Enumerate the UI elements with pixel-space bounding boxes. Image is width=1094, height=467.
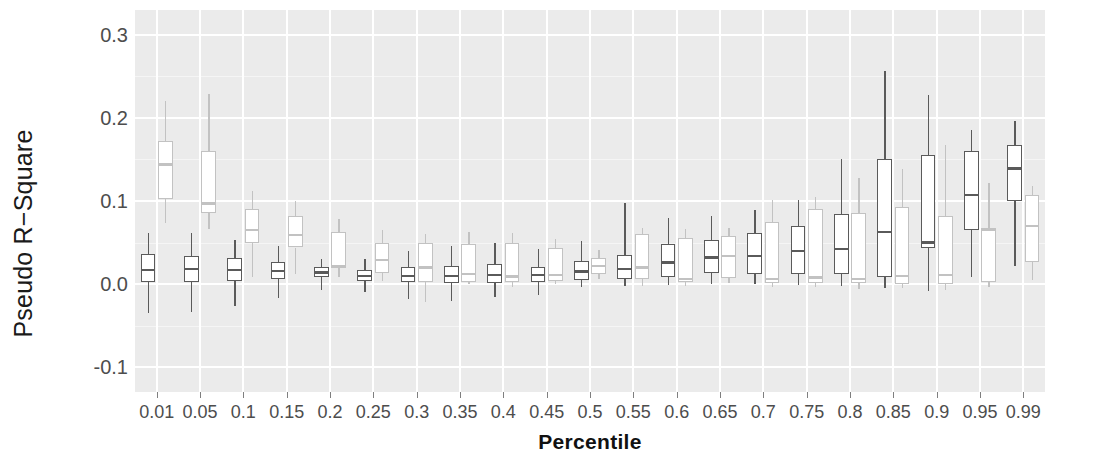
- y-axis-title: Pseudo R−Square: [0, 0, 46, 467]
- x-tick-mark: [547, 392, 548, 398]
- x-tick-mark: [503, 392, 504, 398]
- x-tick-mark: [807, 392, 808, 398]
- x-tick-label: 0.5: [577, 402, 602, 423]
- x-tick-label: 0.7: [751, 402, 776, 423]
- plot-panel: [135, 10, 1045, 392]
- x-tick-mark: [330, 392, 331, 398]
- x-tick-label: 0.45: [529, 402, 564, 423]
- x-tick-label: 0.1: [231, 402, 256, 423]
- x-tick-label: 0.15: [269, 402, 304, 423]
- boxplot-figure: Pseudo R−Square -0.10.00.10.20.3 0.010.0…: [0, 0, 1094, 467]
- y-tick-label: 0.1: [100, 190, 128, 213]
- y-tick-label: -0.1: [94, 356, 128, 379]
- x-tick-mark: [200, 392, 201, 398]
- x-tick-label: 0.2: [317, 402, 342, 423]
- x-axis-title: Percentile: [135, 430, 1045, 460]
- x-tick-mark: [980, 392, 981, 398]
- x-tick-label: 0.6: [664, 402, 689, 423]
- y-axis-tick-labels: -0.10.00.10.20.3: [46, 0, 128, 467]
- x-tick-mark: [157, 392, 158, 398]
- x-tick-mark: [850, 392, 851, 398]
- x-tick-label: 0.05: [182, 402, 217, 423]
- x-tick-mark: [373, 392, 374, 398]
- whisker-lower: [1032, 262, 1034, 279]
- boxplot-box: [135, 10, 1045, 392]
- x-tick-mark: [590, 392, 591, 398]
- x-tick-mark: [633, 392, 634, 398]
- x-tick-mark: [287, 392, 288, 398]
- x-axis-tick-labels: 0.010.050.10.150.20.250.30.350.40.450.50…: [135, 392, 1045, 432]
- x-tick-label: 0.75: [789, 402, 824, 423]
- x-tick-label: 0.99: [1006, 402, 1041, 423]
- x-tick-label: 0.4: [491, 402, 516, 423]
- x-tick-label: 0.25: [356, 402, 391, 423]
- y-tick-label: 0.2: [100, 106, 128, 129]
- x-tick-label: 0.8: [837, 402, 862, 423]
- x-tick-label: 0.55: [616, 402, 651, 423]
- x-tick-label: 0.3: [404, 402, 429, 423]
- x-tick-mark: [677, 392, 678, 398]
- whisker-upper: [1032, 186, 1034, 195]
- x-tick-label: 0.95: [962, 402, 997, 423]
- box-iqr: [1025, 195, 1040, 262]
- y-tick-label: 0.3: [100, 23, 128, 46]
- x-tick-label: 0.35: [442, 402, 477, 423]
- y-tick-label: 0.0: [100, 273, 128, 296]
- x-tick-mark: [460, 392, 461, 398]
- x-tick-label: 0.65: [702, 402, 737, 423]
- x-tick-mark: [720, 392, 721, 398]
- x-tick-mark: [1023, 392, 1024, 398]
- x-tick-label: 0.01: [139, 402, 174, 423]
- x-tick-mark: [243, 392, 244, 398]
- x-tick-mark: [763, 392, 764, 398]
- x-tick-label: 0.85: [876, 402, 911, 423]
- median-line: [1025, 225, 1040, 227]
- x-tick-label: 0.9: [924, 402, 949, 423]
- x-tick-mark: [893, 392, 894, 398]
- x-tick-mark: [417, 392, 418, 398]
- x-tick-mark: [937, 392, 938, 398]
